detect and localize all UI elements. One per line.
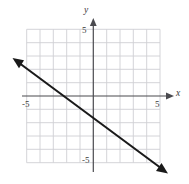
plotted-line (13, 58, 169, 174)
x-tick-label-neg5: -5 (22, 100, 30, 109)
y-tick-label-neg5: -5 (82, 156, 90, 165)
line-arrowhead-upper-left (13, 58, 25, 68)
x-axis-label: x (176, 89, 180, 99)
x-tick-label-5: 5 (155, 100, 160, 109)
x-axis-arrowhead (166, 93, 174, 100)
y-axis-arrowhead (90, 18, 97, 26)
coordinate-plane (0, 0, 189, 184)
x-axis (22, 93, 174, 100)
graph-figure: y x 5 -5 -5 5 (0, 0, 189, 184)
y-tick-label-5: 5 (82, 26, 87, 35)
y-axis-label: y (84, 6, 88, 16)
